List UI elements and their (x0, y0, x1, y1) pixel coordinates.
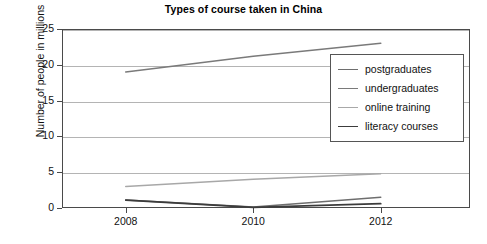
x-tick-label: 2012 (351, 215, 411, 227)
legend-line-icon (338, 102, 358, 113)
y-tick-mark (57, 136, 62, 137)
y-tick-label: 5 (24, 165, 54, 177)
gridline (63, 173, 469, 174)
y-tick-mark (57, 208, 62, 209)
legend-item: undergraduates (338, 79, 457, 98)
x-tick-mark (253, 208, 254, 213)
y-tick-label: 20 (24, 58, 54, 70)
gridline (63, 30, 469, 31)
x-tick-mark (381, 208, 382, 213)
chart-title: Types of course taken in China (0, 3, 487, 15)
y-tick-label: 0 (24, 201, 54, 213)
legend-label: online training (365, 102, 430, 113)
legend-line-icon (338, 121, 358, 132)
legend-label: literacy courses (365, 121, 438, 132)
y-tick-mark (57, 101, 62, 102)
legend-label: postgraduates (365, 64, 432, 75)
chart-legend: postgraduatesundergraduatesonline traini… (330, 54, 464, 142)
legend-item: literacy courses (338, 117, 457, 136)
x-tick-mark (126, 208, 127, 213)
y-tick-label: 10 (24, 129, 54, 141)
y-tick-label: 15 (24, 94, 54, 106)
x-tick-label: 2010 (223, 215, 283, 227)
y-tick-mark (57, 29, 62, 30)
y-tick-mark (57, 65, 62, 66)
legend-item: postgraduates (338, 60, 457, 79)
x-tick-label: 2008 (96, 215, 156, 227)
y-tick-mark (57, 172, 62, 173)
legend-line-icon (338, 64, 358, 75)
legend-label: undergraduates (365, 83, 439, 94)
legend-line-icon (338, 83, 358, 94)
legend-item: online training (338, 98, 457, 117)
y-tick-label: 25 (24, 22, 54, 34)
line-chart: Types of course taken in China Number of… (0, 0, 487, 244)
